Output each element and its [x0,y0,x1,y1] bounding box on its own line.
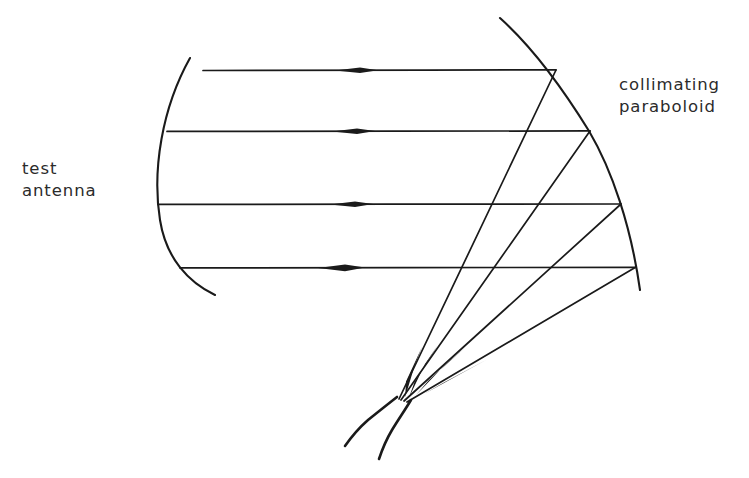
incident-ray-3-arrowhead-icon [330,202,373,207]
test-antenna-label-line-1: test [22,159,57,178]
feed-horn [345,397,411,459]
collimating-paraboloid-label: collimatingparaboloid [619,74,720,118]
reflected-ray-3 [404,204,621,401]
incident-ray-group [158,68,636,272]
ray-diagram-canvas [0,0,749,478]
incident-ray-1-arrowhead-icon [335,68,378,73]
reflected-ray-group [399,70,636,402]
feed-horn-upper-flare [345,397,397,446]
incident-ray-2-arrowhead-icon [332,129,375,134]
test-antenna-label-line-2: antenna [22,181,97,200]
antenna-test-range-diagram: testantenna collimatingparaboloid [0,0,749,478]
collimating-paraboloid-label-line-2: paraboloid [619,97,716,116]
reflected-ray-4 [407,267,636,402]
reflected-ray-1 [399,70,556,399]
test-antenna-aperture-curve [157,58,215,295]
collimating-paraboloid-label-line-1: collimating [619,75,720,94]
incident-ray-4-arrowhead-icon [318,264,365,271]
incident-ray-1 [203,70,556,71]
test-antenna-label: testantenna [22,158,97,202]
reflected-ray-2 [401,131,590,400]
incident-ray-4 [180,267,636,268]
